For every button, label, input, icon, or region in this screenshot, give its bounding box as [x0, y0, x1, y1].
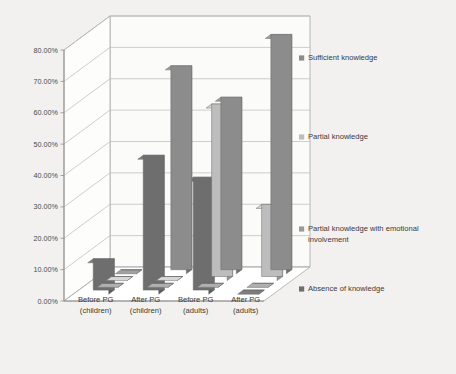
y-tick-70.00%: 70.00%: [34, 77, 59, 86]
x-category-label-3: After PG(adults): [231, 295, 260, 315]
x-category-label-0: Before PG(children): [78, 295, 114, 315]
legend-swatch-2: [299, 226, 304, 231]
svg-text:(children): (children): [80, 306, 112, 315]
legend-item-3[interactable]: Absence of knowledge: [299, 284, 384, 293]
legend-label-1: Partial knowledge: [308, 132, 368, 141]
y-tick-10.00%: 10.00%: [34, 265, 59, 274]
legend-swatch-0: [299, 55, 304, 60]
svg-text:(adults): (adults): [183, 306, 209, 315]
svg-text:Before PG: Before PG: [78, 295, 114, 304]
svg-text:(adults): (adults): [233, 306, 259, 315]
x-category-label-2: Before PG(adults): [178, 295, 214, 315]
legend-label-2: involvement: [308, 235, 349, 244]
legend-label-3: Absence of knowledge: [308, 284, 384, 293]
legend-swatch-1: [299, 134, 304, 139]
x-category-label-1: After PG(children): [130, 295, 162, 315]
legend-item-2[interactable]: Partial knowledge with emotionalinvolvem…: [299, 224, 419, 244]
y-tick-30.00%: 30.00%: [34, 202, 59, 211]
legend-item-0[interactable]: Sufficient knowledge: [299, 53, 378, 62]
legend-item-1[interactable]: Partial knowledge: [299, 132, 368, 141]
grouped-3d-bar-chart: 0.00%10.00%20.00%30.00%40.00%50.00%60.00…: [0, 0, 456, 374]
svg-text:Before PG: Before PG: [178, 295, 214, 304]
y-tick-40.00%: 40.00%: [34, 171, 59, 180]
y-tick-80.00%: 80.00%: [34, 46, 59, 55]
svg-text:After PG: After PG: [131, 295, 160, 304]
y-tick-0.00%: 0.00%: [38, 297, 59, 306]
legend-swatch-3: [299, 286, 304, 291]
legend-label-2: Partial knowledge with emotional: [308, 224, 419, 233]
chart-container: 0.00%10.00%20.00%30.00%40.00%50.00%60.00…: [0, 0, 456, 374]
svg-text:After PG: After PG: [231, 295, 260, 304]
y-tick-50.00%: 50.00%: [34, 140, 59, 149]
legend-label-0: Sufficient knowledge: [308, 53, 378, 62]
svg-text:(children): (children): [130, 306, 162, 315]
y-tick-20.00%: 20.00%: [34, 234, 59, 243]
y-tick-60.00%: 60.00%: [34, 108, 59, 117]
